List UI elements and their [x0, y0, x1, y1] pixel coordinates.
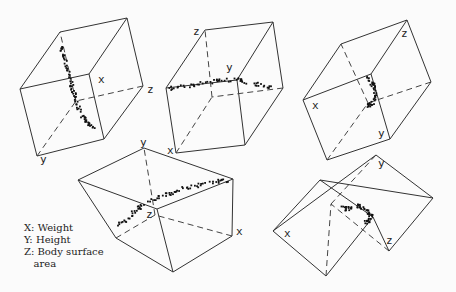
legend-x: X: Weight — [24, 222, 104, 234]
legend-z-cont: area — [24, 258, 104, 270]
axis-label-y: y — [140, 136, 147, 149]
axis-label-y: y — [40, 153, 47, 166]
axis-label-z: z — [386, 234, 393, 247]
axis-label-y: y — [378, 157, 385, 170]
cube-view-top-right: xzy — [303, 20, 431, 160]
axis-label-x: x — [167, 144, 174, 157]
axis-label-y: y — [378, 127, 385, 140]
axis-label-z: z — [146, 208, 153, 221]
axis-label-x: x — [236, 225, 243, 238]
axis-label-x: x — [284, 227, 291, 240]
legend-z: Z: Body surface — [24, 246, 104, 258]
axis-label-z: z — [401, 27, 408, 40]
axis-legend: X: Weight Y: Height Z: Body surface area — [24, 222, 104, 270]
axis-label-z: z — [193, 25, 200, 38]
axis-label-x: x — [312, 99, 319, 112]
cube-view-top-center: xyz — [166, 22, 283, 157]
axis-label-z: z — [147, 83, 154, 96]
legend-y: Y: Height — [24, 234, 104, 246]
axis-label-x: x — [98, 73, 105, 86]
axis-label-y: y — [226, 61, 233, 74]
cube-view-top-left: xzy — [20, 18, 154, 166]
cube-view-bottom-right: xyz — [273, 155, 433, 276]
